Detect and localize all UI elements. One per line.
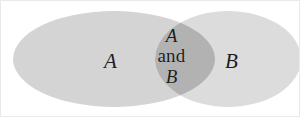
venn-diagram-figure: A B A and B xyxy=(0,0,300,117)
venn-diagram-canvas xyxy=(1,1,300,117)
